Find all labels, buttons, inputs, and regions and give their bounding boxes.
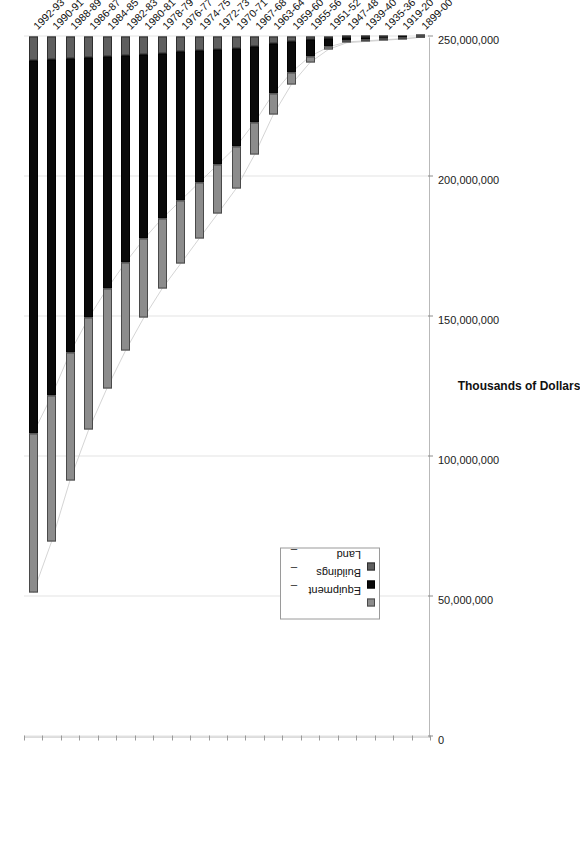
legend-swatch-land bbox=[367, 562, 375, 570]
value-axis-tick-label: 250,000,000 bbox=[438, 33, 499, 45]
bar-segment-land bbox=[103, 36, 112, 56]
bar-segment-buildings bbox=[103, 56, 112, 288]
bar-segment-equipment bbox=[379, 38, 388, 40]
bar-row bbox=[361, 36, 370, 736]
bar-segment-land bbox=[287, 36, 296, 41]
category-tick bbox=[24, 735, 25, 740]
bar-row bbox=[47, 36, 56, 736]
legend-dash: _ bbox=[291, 584, 297, 596]
bar-segment-equipment bbox=[103, 288, 112, 387]
category-tick bbox=[172, 735, 173, 740]
category-tick bbox=[319, 735, 320, 740]
legend-swatch-equipment bbox=[367, 598, 375, 606]
legend-items: Equipment_Buildings_Land_ bbox=[281, 548, 379, 618]
axis-tick bbox=[428, 315, 433, 316]
bar-row bbox=[379, 36, 388, 736]
category-tick bbox=[153, 735, 154, 740]
bar-segment-equipment bbox=[158, 218, 167, 288]
bar-row bbox=[398, 36, 407, 736]
bar-segment-buildings bbox=[176, 51, 185, 199]
category-tick bbox=[98, 735, 99, 740]
category-tick bbox=[375, 735, 376, 740]
chart-legend: Equipment_Buildings_Land_ bbox=[280, 547, 380, 619]
bar-segment-land bbox=[269, 36, 278, 43]
bar-segment-buildings bbox=[324, 38, 333, 46]
bar-segment-buildings bbox=[139, 54, 148, 239]
bar-segment-land bbox=[47, 36, 56, 59]
axis-tick bbox=[428, 455, 433, 456]
bar-segment-equipment bbox=[213, 164, 222, 213]
category-tick bbox=[412, 735, 413, 740]
category-tick bbox=[301, 735, 302, 740]
bar-segment-equipment bbox=[416, 35, 425, 37]
legend-dash: _ bbox=[291, 566, 297, 578]
bar-segment-buildings bbox=[287, 41, 296, 72]
legend-swatch-buildings bbox=[367, 580, 375, 588]
plot-area bbox=[24, 37, 430, 737]
bar-row bbox=[232, 36, 241, 736]
bar-segment-land bbox=[66, 36, 75, 58]
bar-row bbox=[139, 36, 148, 736]
category-tick bbox=[356, 735, 357, 740]
bar-segment-equipment bbox=[121, 262, 130, 350]
bar-row bbox=[195, 36, 204, 736]
bar-segment-land bbox=[213, 36, 222, 49]
bar-segment-buildings bbox=[47, 59, 56, 395]
legend-dash: _ bbox=[291, 548, 297, 560]
legend-label: Land bbox=[337, 548, 361, 560]
bar-segment-equipment bbox=[306, 56, 315, 62]
category-tick bbox=[79, 735, 80, 740]
bar-segment-land bbox=[29, 36, 38, 60]
category-tick bbox=[227, 735, 228, 740]
bar-row bbox=[176, 36, 185, 736]
category-tick bbox=[264, 735, 265, 740]
category-tick bbox=[430, 735, 431, 740]
category-tick bbox=[190, 735, 191, 740]
bar-segment-land bbox=[176, 36, 185, 51]
bar-segment-equipment bbox=[84, 317, 93, 429]
bar-segment-equipment bbox=[232, 146, 241, 188]
bar-segment-land bbox=[195, 36, 204, 50]
bar-segment-land bbox=[232, 36, 241, 48]
value-axis-tick-label: 0 bbox=[438, 733, 444, 745]
bar-row bbox=[213, 36, 222, 736]
value-axis-tick-label: 50,000,000 bbox=[438, 593, 493, 605]
value-axis-tick-label: 150,000,000 bbox=[438, 313, 499, 325]
bar-row bbox=[103, 36, 112, 736]
bar-segment-equipment bbox=[250, 122, 259, 154]
category-tick bbox=[338, 735, 339, 740]
bar-row bbox=[250, 36, 259, 736]
bar-segment-equipment bbox=[66, 352, 75, 479]
bar-row bbox=[84, 36, 93, 736]
bar-row bbox=[158, 36, 167, 736]
bar-segment-equipment bbox=[195, 182, 204, 238]
bar-segment-buildings bbox=[121, 55, 130, 262]
bar-segment-equipment bbox=[342, 40, 351, 42]
category-tick bbox=[61, 735, 62, 740]
category-tick bbox=[209, 735, 210, 740]
bar-segment-equipment bbox=[324, 46, 333, 49]
bar-segment-buildings bbox=[66, 58, 75, 352]
bar-segment-buildings bbox=[250, 46, 259, 122]
axis-tick bbox=[428, 35, 433, 36]
value-axis-tick-label: 200,000,000 bbox=[438, 173, 499, 185]
bar-segment-buildings bbox=[158, 53, 167, 218]
bar-segment-land bbox=[158, 36, 167, 53]
bar-segment-equipment bbox=[287, 72, 296, 84]
category-tick bbox=[393, 735, 394, 740]
bar-row bbox=[416, 36, 425, 736]
category-tick bbox=[245, 735, 246, 740]
bar-segment-buildings bbox=[195, 50, 204, 182]
bar-segment-land bbox=[250, 36, 259, 46]
category-tick bbox=[282, 735, 283, 740]
bar-segment-equipment bbox=[361, 39, 370, 41]
bar-segment-equipment bbox=[47, 395, 56, 541]
bar-row bbox=[121, 36, 130, 736]
value-axis-tick-label: 100,000,000 bbox=[438, 453, 499, 465]
bar-segment-equipment bbox=[398, 37, 407, 39]
axis-tick bbox=[428, 175, 433, 176]
category-tick bbox=[135, 735, 136, 740]
